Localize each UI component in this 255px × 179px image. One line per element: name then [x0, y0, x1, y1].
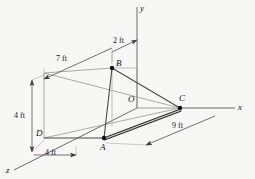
axis-label-x: x	[238, 103, 242, 112]
axis-label-z: z	[6, 166, 10, 175]
dim-9ft-ext-left	[106, 143, 146, 145]
dim-4ft-vertical-ext-top	[32, 75, 44, 80]
dim-4ft-vertical-ext-bottom	[32, 140, 44, 152]
dimension-label-2ft: 2 ft	[113, 37, 124, 45]
dimension-label-9ft: 9 ft	[172, 122, 183, 130]
axis-label-y: y	[140, 4, 144, 13]
frame-top-rear-edge	[44, 68, 112, 73]
point-label-D: D	[36, 129, 43, 138]
dim-7ft-line	[44, 48, 112, 79]
axes-group	[14, 7, 235, 170]
member-BC-line	[112, 68, 180, 108]
point-label-C: C	[179, 94, 185, 103]
dimension-label-4ft-vertical: 4 ft	[14, 112, 25, 120]
point-label-A: A	[100, 143, 106, 152]
member-AC-highlight	[104, 110, 181, 139]
point-marker-A	[102, 136, 106, 140]
figure-canvas	[0, 0, 255, 179]
point-marker-B	[110, 66, 114, 70]
z-axis-line	[14, 108, 137, 170]
statics-figure: y x z B C A D O 2 ft 7 ft 4 ft 4 ft 9 ft	[0, 0, 255, 179]
box-frame-group	[44, 68, 180, 138]
member-AB-line	[104, 68, 112, 138]
point-markers-group	[102, 66, 182, 140]
dimension-label-7ft: 7 ft	[56, 55, 67, 63]
point-marker-C	[178, 106, 182, 110]
point-label-O: O	[128, 95, 135, 104]
point-label-B: B	[116, 59, 122, 68]
dimension-label-4ft-horizontal: 4 ft	[45, 149, 56, 157]
member-AC-thick	[104, 110, 181, 139]
